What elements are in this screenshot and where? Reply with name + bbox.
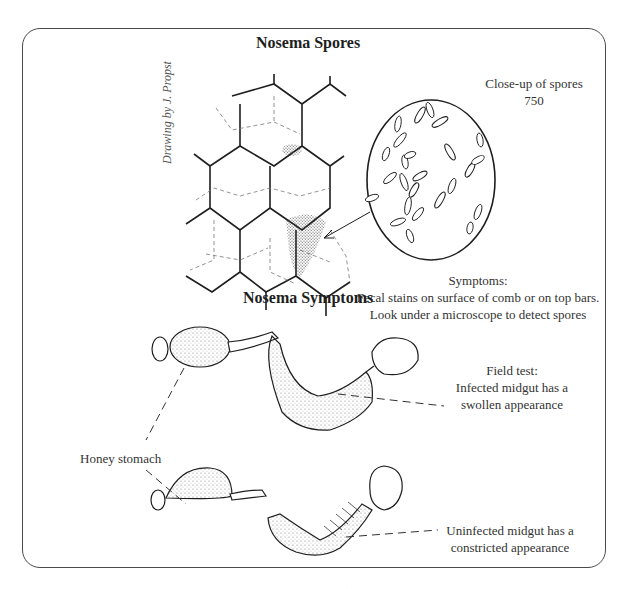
field-test-heading: Field test: xyxy=(448,362,576,379)
infected-midgut-drawing xyxy=(152,327,418,430)
symptoms-line-1: Fecal stains on surface of comb or on to… xyxy=(348,289,608,306)
uninfected-line-1: Uninfected midgut has a xyxy=(440,522,580,539)
drawing-credit: Drawing by J. Propst xyxy=(160,61,175,164)
closeup-label: Close-up of spores 750 xyxy=(478,75,590,109)
field-test-block: Field test: Infected midgut has a swolle… xyxy=(448,362,576,413)
spores-section-title: Nosema Spores xyxy=(256,34,360,52)
magnification-value: 750 xyxy=(478,92,590,109)
symptoms-line-2: Look under a microscope to detect spores xyxy=(348,306,608,323)
fecal-stain-large xyxy=(286,214,326,278)
spore-closeup-circle xyxy=(364,100,495,260)
uninfected-midgut-drawing xyxy=(151,466,402,555)
closeup-label-text: Close-up of spores xyxy=(478,75,590,92)
uninfected-block: Uninfected midgut has a constricted appe… xyxy=(440,522,580,556)
infected-line-1: Infected midgut has a xyxy=(448,379,576,396)
arrow-icon xyxy=(324,212,370,238)
symptoms-heading: Symptoms: xyxy=(348,272,608,289)
honeycomb-icon xyxy=(186,74,350,316)
symptoms-block: Symptoms: Fecal stains on surface of com… xyxy=(348,272,608,323)
fecal-stain-small xyxy=(282,144,302,156)
infected-line-2: swollen appearance xyxy=(448,396,576,413)
symptoms-section-title: Nosema Symptoms xyxy=(243,289,373,307)
uninfected-line-2: constricted appearance xyxy=(440,539,580,556)
honey-stomach-label: Honey stomach xyxy=(80,450,161,467)
